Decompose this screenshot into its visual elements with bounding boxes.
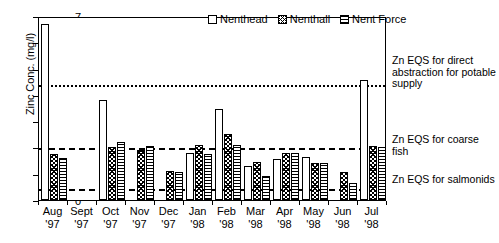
legend-swatch-icon-nenthead xyxy=(208,15,217,24)
bar[interactable] xyxy=(99,100,107,200)
bar-group xyxy=(39,18,68,200)
x-axis-tick-mark xyxy=(241,201,242,205)
x-axis-tick-mark xyxy=(299,201,300,205)
bar-group xyxy=(213,18,242,200)
bar-group xyxy=(184,18,213,200)
bar[interactable] xyxy=(117,142,125,200)
bar[interactable] xyxy=(262,176,270,200)
bar[interactable] xyxy=(166,171,174,200)
legend-label-nenthead: Nenthead xyxy=(220,13,268,25)
bar[interactable] xyxy=(224,134,232,200)
x-axis-tick-mark xyxy=(154,201,155,205)
x-axis-tick-mark xyxy=(270,201,271,205)
bar[interactable] xyxy=(349,183,357,200)
bar[interactable] xyxy=(302,157,310,200)
bar[interactable] xyxy=(186,153,194,200)
bar[interactable] xyxy=(291,153,299,200)
bar[interactable] xyxy=(41,24,49,200)
legend-item-nenthead[interactable]: Nenthead xyxy=(208,13,268,25)
bar[interactable] xyxy=(146,146,154,200)
legend-label-nenthall: Nenthall xyxy=(290,13,330,25)
bar[interactable] xyxy=(378,147,386,200)
annotation-potable-supply: Zn EQS for direct abstraction for potabl… xyxy=(392,55,496,90)
x-axis-tick-mark xyxy=(212,201,213,205)
bar[interactable] xyxy=(233,145,241,200)
x-axis-tick-mark xyxy=(357,201,358,205)
x-axis-tick-mark xyxy=(96,201,97,205)
bar[interactable] xyxy=(311,163,319,200)
y-axis-title: Zinc Conc. (mg/l) xyxy=(24,0,36,154)
bar-group xyxy=(300,18,329,200)
bar[interactable] xyxy=(59,158,67,200)
legend-swatch-icon-nent-force xyxy=(340,15,349,24)
bar[interactable] xyxy=(204,154,212,200)
bar-group xyxy=(155,18,184,200)
x-axis-tick-year: '98 xyxy=(352,218,392,231)
bar-group xyxy=(68,18,97,200)
x-axis-tick-mark xyxy=(125,201,126,205)
x-axis-tick-month: Jul xyxy=(352,205,392,218)
x-axis-tick-mark xyxy=(38,201,39,205)
annotation-coarse-fish: Zn EQS for coarse fish xyxy=(392,134,496,157)
legend-item-nent-force[interactable]: Nent Force xyxy=(340,13,406,25)
bar[interactable] xyxy=(320,163,328,200)
bar[interactable] xyxy=(282,153,290,200)
bar[interactable] xyxy=(137,150,145,200)
bar[interactable] xyxy=(253,162,261,200)
plot-area xyxy=(38,17,386,201)
bar[interactable] xyxy=(360,80,368,200)
x-axis-tick-label: Jul'98 xyxy=(352,205,392,231)
bar-group xyxy=(358,18,387,200)
bar-group xyxy=(126,18,155,200)
bar[interactable] xyxy=(215,109,223,200)
annotation-salmonids: Zn EQS for salmonids xyxy=(392,174,496,186)
zinc-concentration-bar-chart: Zinc Conc. (mg/l) 01234567 Aug'97Sept'97… xyxy=(0,0,499,243)
bar[interactable] xyxy=(369,146,377,200)
bar[interactable] xyxy=(50,154,58,200)
bar[interactable] xyxy=(175,172,183,200)
x-axis-tick-mark xyxy=(386,201,387,205)
legend-swatch-icon-nenthall xyxy=(278,15,287,24)
legend-item-nenthall[interactable]: Nenthall xyxy=(278,13,330,25)
bar-group xyxy=(242,18,271,200)
x-axis-tick-mark xyxy=(67,201,68,205)
x-axis-tick-mark xyxy=(183,201,184,205)
bar[interactable] xyxy=(273,159,281,200)
legend-label-nent-force: Nent Force xyxy=(352,13,406,25)
bar-group xyxy=(97,18,126,200)
bar[interactable] xyxy=(108,147,116,200)
x-axis-tick-mark xyxy=(328,201,329,205)
bar[interactable] xyxy=(244,166,252,200)
bar[interactable] xyxy=(195,145,203,200)
legend: Nenthead Nenthall Nent Force xyxy=(208,13,407,25)
bar[interactable] xyxy=(340,172,348,200)
bar-group xyxy=(271,18,300,200)
bar-group xyxy=(329,18,358,200)
